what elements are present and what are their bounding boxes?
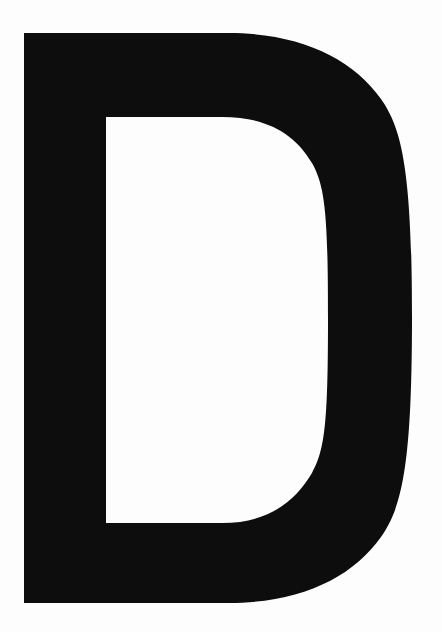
letter-d-glyph: Black uppercase letter D on a white back… — [0, 0, 442, 632]
glyph-canvas: Black uppercase letter D on a white back… — [0, 0, 442, 632]
letter-d-outline-path — [24, 33, 412, 603]
